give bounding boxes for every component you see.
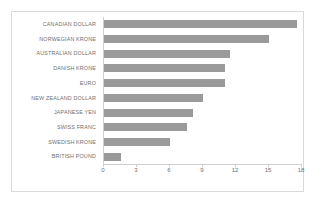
bar	[103, 35, 269, 43]
bar	[103, 138, 170, 146]
category-label: DANISH KRONE	[53, 61, 96, 76]
bar-row	[103, 105, 301, 120]
value-axis-tick-label: 0	[101, 167, 104, 173]
category-label: JAPANESE YEN	[54, 105, 96, 120]
bar	[103, 94, 203, 102]
bar-row	[103, 91, 301, 106]
category-label: SWISS FRANC	[57, 120, 96, 135]
bar-row	[103, 120, 301, 135]
value-axis-tick-label: 15	[265, 167, 272, 173]
bar	[103, 123, 187, 131]
bar	[103, 50, 230, 58]
value-axis-tick-label: 9	[200, 167, 203, 173]
bar	[103, 64, 225, 72]
bar-row	[103, 76, 301, 91]
category-label: NEW ZEALAND DOLLAR	[31, 91, 96, 106]
category-label: SWEDISH KRONE	[48, 135, 96, 150]
category-axis: CANADIAN DOLLARNORWEGIAN KRONEAUSTRALIAN…	[14, 17, 100, 164]
value-axis-tick-label: 12	[232, 167, 239, 173]
zero-axis-line	[103, 17, 104, 165]
bar	[103, 79, 225, 87]
category-label: EURO	[80, 76, 96, 91]
bar	[103, 109, 193, 117]
bar-row	[103, 46, 301, 61]
value-axis-tick-label: 18	[298, 167, 305, 173]
category-label: CANADIAN DOLLAR	[43, 17, 96, 32]
bar-row	[103, 17, 301, 32]
category-label: AUSTRALIAN DOLLAR	[37, 46, 96, 61]
value-axis: 0369121518	[103, 167, 301, 183]
bar-chart-figure: CANADIAN DOLLARNORWEGIAN KRONEAUSTRALIAN…	[0, 0, 319, 208]
category-label: BRITISH POUND	[52, 149, 96, 164]
bar	[103, 153, 121, 161]
bar-row	[103, 32, 301, 47]
bar-row	[103, 61, 301, 76]
category-label: NORWEGIAN KRONE	[39, 32, 96, 47]
bar-row	[103, 135, 301, 150]
bar-row	[103, 149, 301, 164]
value-axis-tick-label: 3	[134, 167, 137, 173]
value-axis-tick-label: 6	[167, 167, 170, 173]
bar	[103, 20, 297, 28]
plot-area	[103, 17, 301, 164]
